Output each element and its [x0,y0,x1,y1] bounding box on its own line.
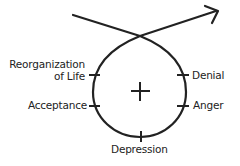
label-depression: Depression [111,143,168,155]
label-anger: Anger [193,99,223,111]
grief-loop-diagram [0,0,240,166]
label-acceptance: Acceptance [5,99,87,111]
label-denial: Denial [192,69,224,81]
label-reorganization: Reorganization of Life [5,58,85,82]
